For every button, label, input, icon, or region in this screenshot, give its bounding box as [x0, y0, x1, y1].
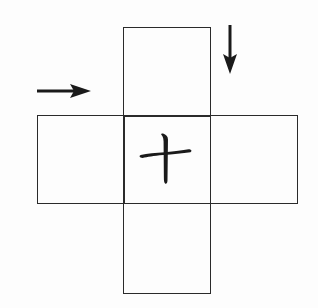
diagram-canvas: 十 — [0, 0, 318, 308]
cell-left — [37, 115, 125, 204]
cell-top — [123, 27, 211, 117]
cell-right — [210, 115, 298, 204]
arrow-right-icon — [34, 82, 94, 100]
shi-character-icon — [124, 116, 210, 203]
arrow-down-icon — [221, 24, 239, 76]
cell-center: 十 — [123, 115, 211, 204]
cell-bottom — [123, 203, 211, 294]
